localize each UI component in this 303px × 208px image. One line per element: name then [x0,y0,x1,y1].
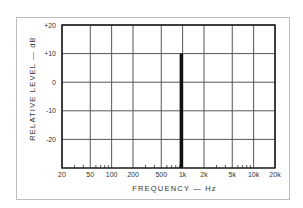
x-tick-label: 20k [269,171,281,178]
y-tick-label: 0 [52,79,56,86]
y-tick-label: -20 [46,136,56,143]
bar-series [180,54,184,168]
x-tick-label: 20 [58,171,66,178]
x-tick-label: 200 [127,171,139,178]
x-axis-tick-labels: 20501002005001k2k5k10k20k [58,171,281,178]
y-tick-label: -10 [46,107,56,114]
grid-lines [62,25,275,168]
y-tick-label: +20 [44,22,56,29]
x-tick-label: 1k [179,171,187,178]
y-tick-label: +10 [44,50,56,57]
y-axis-title: RELATIVE LEVEL — dB [28,36,37,141]
plot-area [62,25,275,168]
x-tick-label: 50 [86,171,94,178]
x-tick-label: 5k [229,171,237,178]
x-tick-label: 100 [106,171,118,178]
x-axis-title: FREQUENCY — Hz [132,184,217,193]
y-axis-tick-labels: +20+100-10-20 [44,22,56,143]
bar-1k [180,54,184,168]
x-tick-label: 10k [248,171,260,178]
frequency-response-chart: 20501002005001k2k5k10k20k +20+100-10-20 … [0,0,303,208]
x-tick-label: 500 [155,171,167,178]
x-tick-label: 2k [200,171,208,178]
